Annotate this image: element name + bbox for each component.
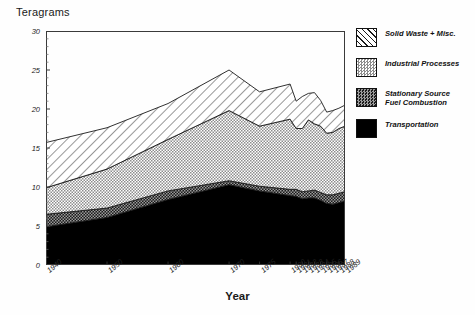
- area-layers: [46, 70, 345, 265]
- legend-swatch-dark-checker-icon: [356, 88, 377, 107]
- x-axis-title: Year: [0, 290, 475, 302]
- chart-container: Teragrams 051015202530: [0, 0, 475, 315]
- legend-label: Solid Waste + Misc.: [385, 28, 456, 38]
- legend-item[interactable]: Industrial Processes: [356, 58, 474, 77]
- y-tick-label: 25: [4, 66, 44, 75]
- y-tick-label: 30: [4, 27, 44, 36]
- stacked-area-svg: [46, 31, 345, 265]
- y-axis-title: Teragrams: [16, 6, 70, 18]
- legend-swatch-solid-black-icon: [356, 119, 377, 138]
- legend-label: Transportation: [385, 119, 438, 129]
- legend-item[interactable]: Transportation: [356, 119, 474, 138]
- y-tick-label: 15: [4, 144, 44, 153]
- y-axis-tick-labels: 051015202530: [0, 31, 44, 265]
- legend-item[interactable]: Solid Waste + Misc.: [356, 28, 474, 47]
- legend-swatch-diagonal-hatch-icon: [356, 28, 377, 47]
- y-tick-label: 10: [4, 183, 44, 192]
- y-tick-label: 5: [4, 222, 44, 231]
- y-tick-label: 0: [4, 261, 44, 270]
- legend-label: Stationary SourceFuel Combustion: [385, 88, 450, 108]
- legend-label: Industrial Processes: [385, 58, 459, 68]
- legend-item[interactable]: Stationary SourceFuel Combustion: [356, 88, 474, 108]
- legend-swatch-light-dots-icon: [356, 58, 377, 77]
- plot-area: [46, 31, 345, 265]
- chart-legend: Solid Waste + Misc.Industrial ProcessesS…: [356, 28, 474, 149]
- y-tick-label: 20: [4, 105, 44, 114]
